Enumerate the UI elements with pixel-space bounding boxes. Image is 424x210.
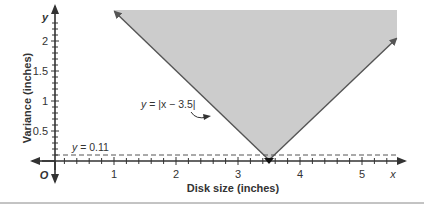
- x-tick-4: 4: [297, 168, 303, 180]
- dashed-line-equation-label: y = 0.11: [71, 141, 109, 153]
- shaded-region: [113, 10, 397, 160]
- x-tick-5: 5: [359, 168, 365, 180]
- x-tick-2: 2: [173, 168, 179, 180]
- y-axis-letter: y: [41, 11, 49, 23]
- x-tick-1: 1: [111, 168, 117, 180]
- chart: 1 2 3 4 5 0.5 1 1.5 2 y x O Disk size (i…: [0, 0, 424, 210]
- x-axis-letter: x: [389, 168, 396, 180]
- x-axis-title: Disk size (inches): [187, 182, 280, 194]
- y-tick-0-5: 0.5: [33, 125, 48, 137]
- abs-equation-label: y = |x − 3.5|: [140, 98, 195, 110]
- origin-label: O: [40, 169, 49, 181]
- y-tick-2: 2: [42, 35, 48, 47]
- annotation-arrowhead: [203, 114, 211, 120]
- y-tick-1-5: 1.5: [33, 65, 48, 77]
- y-axis-title: Variance (inches): [21, 52, 33, 143]
- x-tick-3: 3: [235, 168, 241, 180]
- y-tick-1: 1: [42, 95, 48, 107]
